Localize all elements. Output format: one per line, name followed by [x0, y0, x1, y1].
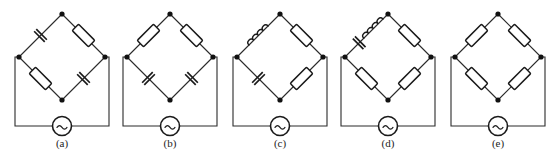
- node-right-e: [538, 54, 543, 59]
- resistor-symbol: [508, 24, 531, 47]
- resistor-symbol: [508, 67, 531, 90]
- circuit-panel-c[interactable]: (c): [233, 11, 327, 150]
- arm-bottom-right-c: [280, 57, 323, 100]
- resistor-symbol: [290, 67, 313, 90]
- supply-wire-right-d: [398, 57, 436, 126]
- arm-top-right-a: [62, 14, 105, 57]
- resistor-body: [290, 67, 313, 90]
- supply-wire-left-b: [123, 57, 161, 126]
- node-bottom-d: [385, 97, 390, 102]
- arm-top-left-d: [345, 14, 388, 57]
- resistor-symbol: [465, 67, 488, 90]
- circuit-panel-d[interactable]: (d): [341, 11, 435, 150]
- inductor-coil: [246, 23, 268, 45]
- ac-source-circle-c[interactable]: [271, 117, 290, 136]
- arm-wire-bottom-left-b: [127, 57, 170, 100]
- node-left-c: [234, 54, 239, 59]
- supply-wire-right-a: [72, 57, 110, 126]
- supply-wire-right-b: [180, 57, 218, 126]
- supply-wire-right-e: [508, 57, 546, 126]
- arm-top-left-e: [455, 14, 498, 57]
- node-left-d: [342, 54, 347, 59]
- ac-source-b[interactable]: [161, 117, 180, 136]
- arm-bottom-left-b: [127, 57, 170, 100]
- panel-caption-c: (c): [274, 137, 287, 150]
- resistor-body: [465, 24, 488, 47]
- resistor-symbol: [72, 24, 95, 47]
- figure-root: (a)(b)(c)(d)(e): [0, 0, 550, 164]
- resistor-body: [290, 24, 313, 47]
- ac-source-circle-e[interactable]: [489, 117, 508, 136]
- node-bottom-c: [277, 97, 282, 102]
- resistor-symbol: [465, 24, 488, 47]
- arm-top-right-d: [388, 14, 431, 57]
- resistor-body: [508, 67, 531, 90]
- resistor-body: [398, 24, 421, 47]
- arm-wire-bottom-right-a: [62, 57, 105, 100]
- ac-source-circle-a[interactable]: [53, 117, 72, 136]
- supply-wire-right-c: [290, 57, 328, 126]
- node-top-e: [495, 11, 500, 16]
- arm-bottom-right-e: [498, 57, 541, 100]
- resistor-symbol: [398, 67, 421, 90]
- ac-source-c[interactable]: [271, 117, 290, 136]
- ac-source-circle-d[interactable]: [379, 117, 398, 136]
- panel-caption-b: (b): [164, 137, 177, 150]
- supply-wire-left-d: [341, 57, 379, 126]
- panel-caption-e: (e): [492, 137, 505, 150]
- arm-bottom-left-c: [237, 57, 280, 100]
- node-left-e: [452, 54, 457, 59]
- node-left-a: [16, 54, 21, 59]
- arm-top-right-e: [498, 14, 541, 57]
- resistor-body: [355, 67, 378, 90]
- resistor-symbol: [180, 24, 203, 47]
- arm-bottom-left-e: [455, 57, 498, 100]
- resistor-body: [29, 67, 52, 90]
- node-right-b: [210, 54, 215, 59]
- node-right-d: [428, 54, 433, 59]
- circuit-diagram-canvas: (a)(b)(c)(d)(e): [0, 0, 550, 164]
- resistor-symbol: [290, 24, 313, 47]
- arm-bottom-right-a: [62, 57, 105, 100]
- arm-wire-top-left-a: [19, 14, 62, 57]
- panel-caption-a: (a): [56, 137, 69, 150]
- arm-top-right-b: [170, 14, 213, 57]
- node-top-c: [277, 11, 282, 16]
- circuit-panel-a[interactable]: (a): [15, 11, 109, 150]
- resistor-body: [508, 24, 531, 47]
- node-top-b: [167, 11, 172, 16]
- resistor-symbol: [355, 67, 378, 90]
- arm-top-right-c: [280, 14, 323, 57]
- resistor-body: [137, 24, 160, 47]
- inductor-symbol: [246, 23, 268, 45]
- resistor-body: [398, 67, 421, 90]
- node-top-a: [59, 11, 64, 16]
- arm-bottom-left-a: [19, 57, 62, 100]
- circuit-panel-e[interactable]: (e): [451, 11, 545, 150]
- node-right-a: [102, 54, 107, 59]
- ac-source-d[interactable]: [379, 117, 398, 136]
- panel-caption-d: (d): [382, 137, 395, 150]
- node-right-c: [320, 54, 325, 59]
- supply-wire-left-e: [451, 57, 489, 126]
- arm-bottom-left-d: [345, 57, 388, 100]
- arm-bottom-right-b: [170, 57, 213, 100]
- inductor-symbol: [361, 17, 383, 39]
- ac-source-circle-b[interactable]: [161, 117, 180, 136]
- resistor-body: [465, 67, 488, 90]
- resistor-body: [72, 24, 95, 47]
- arm-top-left-c: [237, 14, 280, 57]
- arm-wire-bottom-right-b: [170, 57, 213, 100]
- ac-source-a[interactable]: [53, 117, 72, 136]
- node-bottom-e: [495, 97, 500, 102]
- supply-wire-left-c: [233, 57, 271, 126]
- arm-wire-bottom-left-c: [237, 57, 280, 100]
- resistor-symbol: [29, 67, 52, 90]
- ac-source-e[interactable]: [489, 117, 508, 136]
- inductor-coil: [361, 17, 383, 39]
- node-bottom-b: [167, 97, 172, 102]
- arm-bottom-right-d: [388, 57, 431, 100]
- circuit-panel-b[interactable]: (b): [123, 11, 217, 150]
- arm-top-left-a: [19, 14, 62, 57]
- resistor-symbol: [398, 24, 421, 47]
